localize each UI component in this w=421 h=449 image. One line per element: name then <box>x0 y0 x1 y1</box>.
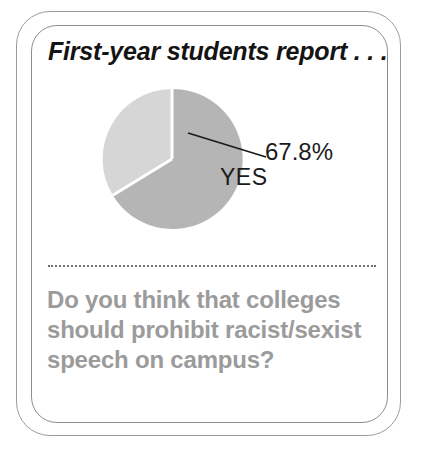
pie-callout-percentage: 67.8% <box>265 138 333 166</box>
pie-chart: YES 67.8% <box>40 80 380 250</box>
pie-slice-label-yes: YES <box>220 164 268 191</box>
infographic-card: First-year students report . . . YES 67.… <box>0 0 421 449</box>
page-title: First-year students report . . . <box>48 36 378 66</box>
survey-question-text: Do you think that colleges should prohib… <box>47 285 377 375</box>
section-divider <box>48 265 376 267</box>
